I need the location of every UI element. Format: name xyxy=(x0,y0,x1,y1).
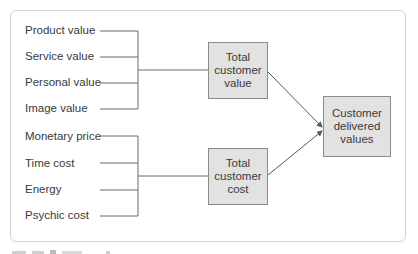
customer-delivered-values-box: Customer delivered values xyxy=(323,96,391,157)
total-customer-value-box: Total customer value xyxy=(208,42,268,99)
total-customer-value-label: Total customer value xyxy=(214,51,261,90)
total-customer-cost-box: Total customer cost xyxy=(208,148,268,205)
cut-off-caption xyxy=(10,250,130,254)
total-customer-cost-label: Total customer cost xyxy=(214,157,261,196)
customer-delivered-values-label: Customer delivered values xyxy=(332,107,382,146)
